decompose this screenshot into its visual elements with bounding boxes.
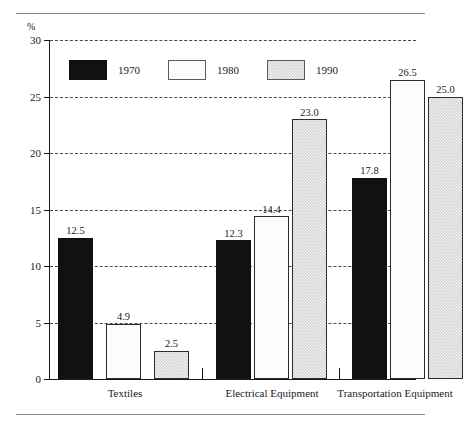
bar-textiles-1980: 4.9 [106, 324, 141, 379]
y-tick-20 [44, 153, 50, 154]
bar-transportation-1990: 25.0 [428, 97, 463, 380]
bar-value-transportation-1990: 25.0 [436, 85, 454, 96]
y-tick-30 [44, 40, 50, 41]
gridline-20 [50, 153, 416, 154]
bar-value-textiles-1990: 2.5 [165, 339, 178, 350]
y-tick-label-25: 25 [30, 91, 41, 102]
y-tick-label-15: 15 [30, 204, 41, 215]
bar-value-electrical-1990: 23.0 [300, 108, 318, 119]
legend-item-1980: 1980 [168, 60, 267, 80]
bottom-rule [16, 414, 425, 415]
group-separator-tick-1 [202, 368, 203, 379]
y-tick-label-5: 5 [36, 317, 42, 328]
y-tick-10 [44, 266, 50, 267]
y-tick-label-10: 10 [30, 261, 41, 272]
legend: 1970 1980 1990 [69, 60, 338, 80]
legend-label-1990: 1990 [316, 65, 338, 76]
legend-swatch-1970-icon [69, 60, 107, 80]
y-tick-label-20: 20 [30, 148, 41, 159]
y-tick-25 [44, 97, 50, 98]
gridline-30 [50, 40, 416, 41]
bar-electrical-1980: 14.4 [254, 216, 289, 379]
legend-swatch-1990-icon [267, 60, 305, 80]
bar-electrical-1970: 12.3 [216, 240, 251, 379]
bar-value-transportation-1970: 17.8 [360, 166, 378, 177]
legend-item-1970: 1970 [69, 60, 168, 80]
legend-label-1970: 1970 [118, 65, 140, 76]
top-rule [16, 13, 425, 14]
y-tick-0 [44, 379, 50, 380]
gridline-25 [50, 97, 416, 98]
y-tick-label-30: 30 [30, 35, 41, 46]
y-tick-label-0: 0 [36, 374, 42, 385]
bar-textiles-1990: 2.5 [154, 351, 189, 379]
legend-label-1980: 1980 [217, 65, 239, 76]
group-separator-tick-2 [339, 368, 340, 379]
y-axis-unit-label: % [27, 22, 35, 32]
bar-value-electrical-1970: 12.3 [224, 229, 242, 240]
y-tick-5 [44, 323, 50, 324]
bar-textiles-1970: 12.5 [58, 238, 93, 379]
bar-value-transportation-1980: 26.5 [398, 68, 416, 79]
category-label-textiles: Textiles [108, 388, 143, 399]
category-label-transportation-equipment: Transportation Equipment [337, 388, 452, 399]
bar-transportation-1970: 17.8 [352, 178, 387, 379]
y-tick-15 [44, 210, 50, 211]
bar-value-textiles-1970: 12.5 [66, 226, 84, 237]
plot-area: 30 25 20 15 10 5 0 12.5 4.9 2.5 12.3 [50, 40, 416, 379]
bar-value-electrical-1980: 14.4 [262, 205, 280, 216]
legend-item-1990: 1990 [267, 60, 338, 80]
category-label-electrical-equipment: Electrical Equipment [225, 388, 318, 399]
bar-transportation-1980: 26.5 [390, 80, 425, 379]
bar-value-textiles-1980: 4.9 [117, 312, 130, 323]
legend-swatch-1980-icon [168, 60, 206, 80]
bar-electrical-1990: 23.0 [292, 119, 327, 379]
